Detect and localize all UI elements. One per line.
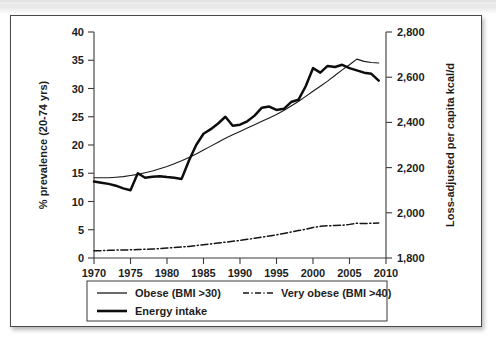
y-axis-left-tick-label: 35	[72, 54, 84, 66]
x-axis-ticks	[94, 258, 386, 264]
y-axis-right-tick-label: 2,400	[397, 116, 425, 128]
y-axis-right-title: Loss-adjusted per capita kcal/d	[444, 63, 456, 227]
y-axis-left-tick-labels: 0510152025303540	[72, 26, 84, 264]
y-axis-right-tick-label: 2,200	[397, 162, 425, 174]
screenshot-root: 0510152025303540 19701975198019851990199…	[0, 0, 496, 346]
y-axis-right-tick-label: 1,800	[397, 252, 425, 264]
y-axis-right-tick-labels: 1,8002,0002,2002,4002,6002,800	[397, 26, 425, 264]
x-axis-tick-labels: 197019751980198519901995200020052010	[82, 267, 398, 279]
scan-band-top	[0, 0, 496, 13]
y-axis-left-tick-label: 40	[72, 26, 84, 38]
y-axis-left-ticks	[88, 32, 94, 258]
y-axis-left-tick-label: 0	[78, 252, 84, 264]
series-line-very-obese	[94, 223, 379, 251]
x-axis-tick-label: 2000	[301, 267, 325, 279]
y-axis-left-tick-label: 30	[72, 83, 84, 95]
series-line-energy-intake	[94, 65, 379, 190]
scan-band-seam	[0, 0, 496, 2]
figure-card: 0510152025303540 19701975198019851990199…	[10, 15, 482, 327]
y-axis-right-tick-label: 2,000	[397, 207, 425, 219]
x-axis-tick-label: 1970	[82, 267, 106, 279]
x-axis-tick-label: 1990	[228, 267, 252, 279]
y-axis-left-title: % prevalence (20-74 yrs)	[37, 80, 49, 209]
y-axis-left-tick-label: 10	[72, 196, 84, 208]
y-axis-left-tick-label: 20	[72, 139, 84, 151]
y-axis-left-tick-label: 25	[72, 111, 84, 123]
line-chart: 0510152025303540 19701975198019851990199…	[11, 16, 483, 328]
y-axis-left-tick-label: 5	[78, 224, 84, 236]
legend-label-obese: Obese (BMI >30)	[135, 287, 221, 299]
series-line-obese	[94, 59, 379, 178]
legend-label-energy-intake: Energy intake	[135, 305, 207, 317]
x-axis-tick-label: 1975	[118, 267, 142, 279]
y-axis-left-tick-label: 15	[72, 167, 84, 179]
y-axis-right-tick-label: 2,800	[397, 26, 425, 38]
x-axis-tick-label: 2005	[337, 267, 361, 279]
legend-label-very-obese: Very obese (BMI >40)	[281, 287, 392, 299]
x-axis-tick-label: 1985	[191, 267, 215, 279]
chart-canvas: 0510152025303540 19701975198019851990199…	[11, 16, 483, 328]
y-axis-right-ticks	[386, 32, 392, 258]
y-axis-right-tick-label: 2,600	[397, 71, 425, 83]
x-axis-tick-label: 1980	[155, 267, 179, 279]
x-axis-tick-label: 2010	[374, 267, 398, 279]
x-axis-tick-label: 1995	[264, 267, 288, 279]
